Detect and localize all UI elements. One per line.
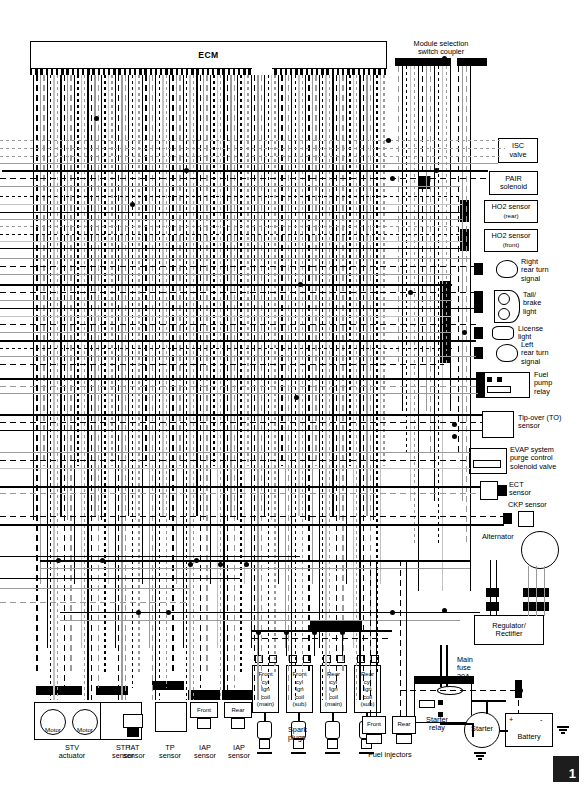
ecm-box[interactable]: ECM (30, 41, 387, 69)
ect-sensor-tip (498, 485, 507, 496)
license-light-connector[interactable] (474, 327, 483, 339)
isc-valve-box[interactable]: ISC valve (498, 138, 538, 163)
rear-cyl-ign-coil-main-box[interactable]: RearcylIgncoil(main) (320, 665, 347, 713)
vertical-wire (398, 66, 399, 366)
vertical-wire (43, 75, 44, 466)
spark-plug-body (327, 739, 338, 749)
right-rear-turn-signal-label: Right rear turn signal (521, 258, 581, 283)
junction-dot (136, 610, 141, 615)
iap-front-inner-label: Front (190, 706, 218, 714)
spark-plug-lead (264, 713, 266, 721)
vertical-wire (166, 75, 167, 688)
iat-sensor-caption: IAT sensor (118, 744, 150, 761)
vertical-wire (240, 75, 241, 672)
spark-plug-cap[interactable] (257, 721, 272, 739)
junction-dot (452, 422, 457, 427)
vertical-wire (40, 75, 41, 584)
right-rear-turn-signal-bulb[interactable] (496, 260, 518, 278)
fuel-pump-relay-box[interactable] (484, 372, 530, 398)
horizontal-wire (0, 148, 505, 149)
vertical-wire (325, 75, 326, 700)
vertical-wire (244, 75, 245, 584)
spark-plug-lead (332, 713, 334, 721)
tip-over-sensor-box[interactable] (482, 411, 514, 438)
vertical-wire (363, 75, 364, 700)
vertical-wire (53, 75, 54, 700)
horizontal-wire (0, 364, 444, 365)
junction-dot (390, 610, 395, 615)
rear-cyl-ign-coil-main-terminal-b[interactable] (337, 655, 345, 663)
vertical-wire (189, 75, 190, 700)
vertical-wire (466, 66, 467, 546)
vertical-wire (179, 75, 180, 466)
junction-dot (94, 116, 99, 121)
left-rear-turn-signal-bulb[interactable] (496, 344, 518, 362)
iap-sensor-front-caption: IAP sensor (188, 744, 222, 761)
front-cyl-ign-coil-main-terminal-b[interactable] (269, 655, 277, 663)
vertical-wire (438, 66, 439, 546)
rear-cyl-ign-coil-sub-terminal-b[interactable] (371, 655, 379, 663)
vertical-wire (450, 66, 451, 411)
horizontal-wire (0, 493, 480, 494)
ho2-sensor-front-box[interactable]: HO2 sensor (front) (484, 229, 538, 252)
horizontal-wire (0, 602, 190, 603)
right-rear-turn-connector[interactable] (474, 263, 483, 275)
pair-solenoid-box[interactable]: PAIR solenoid (489, 171, 538, 195)
ckp-sensor-connector[interactable] (503, 513, 512, 524)
iap-front-tip (197, 718, 211, 729)
horizontal-wire (0, 332, 452, 333)
tp-sensor-box[interactable] (155, 702, 187, 732)
front-cyl-ign-coil-main-line-4: (main) (257, 700, 274, 707)
iap-rear-tip (231, 718, 245, 729)
rear-cyl-ign-coil-sub-line-4: (sub) (361, 700, 375, 707)
iat-sensor-body[interactable] (123, 714, 143, 728)
junction-dot (442, 56, 447, 61)
vertical-wire (312, 75, 313, 584)
front-cyl-ign-coil-main-box[interactable]: FrontcylIgncoil(main) (252, 665, 279, 713)
injector-rear-label: Rear (392, 720, 416, 728)
stv-motor-2-label: Motor (70, 726, 100, 734)
ho2-sensor-rear-box[interactable]: HO2 sensor (rear) (484, 200, 538, 223)
starter-relay-coil (419, 700, 435, 708)
horizontal-wire (500, 730, 508, 732)
spark-plug-lead (298, 713, 300, 721)
horizontal-wire (0, 340, 476, 342)
spark-plug-cap[interactable] (325, 721, 340, 739)
vertical-wire (121, 75, 122, 700)
vertical-wire (159, 75, 160, 700)
wiring-diagram-page: ECM Module selection switch coupler ISC … (0, 0, 587, 786)
tail-brake-connector[interactable] (474, 291, 483, 313)
license-light-bulb[interactable] (492, 326, 514, 340)
stp-sensor-connector[interactable] (96, 686, 128, 695)
alternator-symbol[interactable] (521, 531, 559, 569)
vertical-wire (274, 75, 275, 672)
vertical-wire (356, 75, 357, 700)
horizontal-wire (0, 292, 476, 293)
ect-sensor-body[interactable] (480, 481, 498, 500)
vertical-wire (346, 75, 347, 584)
horizontal-wire (0, 393, 478, 394)
horizontal-wire (400, 690, 520, 691)
vertical-wire (418, 66, 419, 591)
horizontal-wire (0, 452, 470, 453)
vertical-wire (84, 75, 85, 700)
horizontal-wire (0, 378, 478, 380)
horizontal-wire (0, 186, 460, 187)
vertical-wire (406, 560, 407, 716)
vertical-wire (176, 75, 177, 584)
junction-dot (188, 562, 193, 567)
tp-sensor-caption: TP sensor (152, 744, 188, 761)
vertical-wire (210, 75, 211, 584)
vertical-wire (376, 560, 377, 716)
regulator-rectifier-box[interactable]: Regulator/ Rectifier (474, 615, 544, 645)
vertical-wire (247, 75, 248, 466)
stv-actuator-connector[interactable] (36, 686, 82, 695)
ckp-sensor-body[interactable] (518, 511, 534, 527)
front-cyl-ign-coil-sub-box[interactable]: FrontcylIgncoil(sub) (286, 665, 313, 713)
vertical-wire (50, 75, 51, 700)
tp-sensor-connector[interactable] (152, 681, 184, 690)
module-coupler-right[interactable] (457, 58, 487, 66)
front-cyl-ign-coil-sub-terminal-b[interactable] (303, 655, 311, 663)
junction-dot (390, 176, 395, 181)
ckp-sensor-label: CKP sensor (508, 501, 570, 509)
